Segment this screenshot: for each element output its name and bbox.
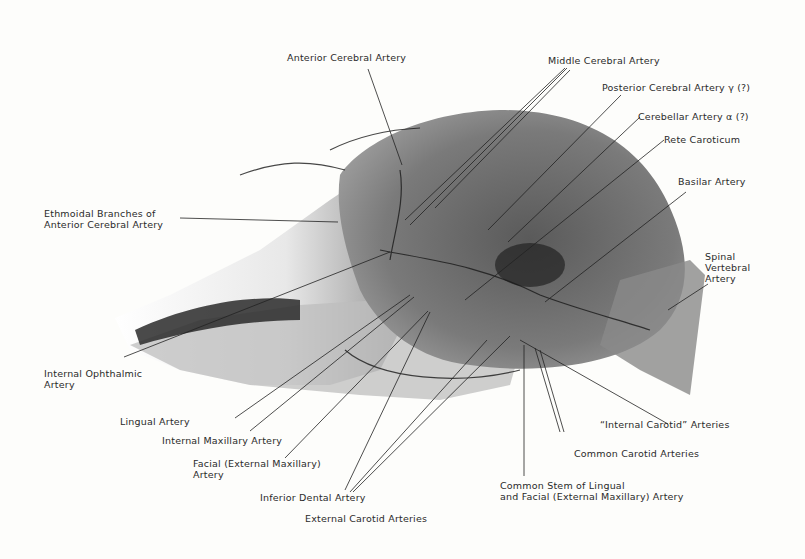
label-internal-maxillary-artery: Internal Maxillary Artery — [162, 435, 282, 446]
label-common-carotid-arteries: Common Carotid Arteries — [574, 448, 699, 459]
label-internal-ophthalmic-artery: Internal Ophthalmic — [44, 368, 142, 379]
label-basilar-artery: Basilar Artery — [678, 176, 746, 187]
label-common-stem: Common Stem of Lingual — [500, 480, 625, 491]
label-inferior-dental-artery: Inferior Dental Artery — [260, 492, 366, 503]
label-ethmoidal-branches-line2: Anterior Cerebral Artery — [44, 219, 163, 230]
label-common-stem-line2: and Facial (External Maxillary) Artery — [500, 491, 684, 502]
label-anterior-cerebral-artery: Anterior Cerebral Artery — [287, 52, 406, 63]
label-internal-carotid-arteries: “Internal Carotid” Arteries — [600, 419, 730, 430]
label-spinal-vertebral-artery: Spinal — [705, 251, 735, 262]
label-ethmoidal-branches: Ethmoidal Branches of — [44, 208, 156, 219]
label-posterior-cerebral-artery: Posterior Cerebral Artery γ (?) — [602, 82, 750, 93]
label-external-carotid-arteries: External Carotid Arteries — [305, 513, 427, 524]
label-facial-artery-line2: Artery — [193, 469, 224, 480]
label-middle-cerebral-artery: Middle Cerebral Artery — [548, 55, 660, 66]
label-cerebellar-artery: Cerebellar Artery α (?) — [638, 111, 749, 122]
label-spinal-vertebral-artery-line3: Artery — [705, 273, 736, 284]
label-rete-caroticum: Rete Caroticum — [664, 134, 740, 145]
label-spinal-vertebral-artery-line2: Vertebral — [705, 262, 750, 273]
label-lingual-artery: Lingual Artery — [120, 416, 190, 427]
label-internal-ophthalmic-artery-line2: Artery — [44, 379, 75, 390]
label-facial-artery: Facial (External Maxillary) — [193, 458, 321, 469]
